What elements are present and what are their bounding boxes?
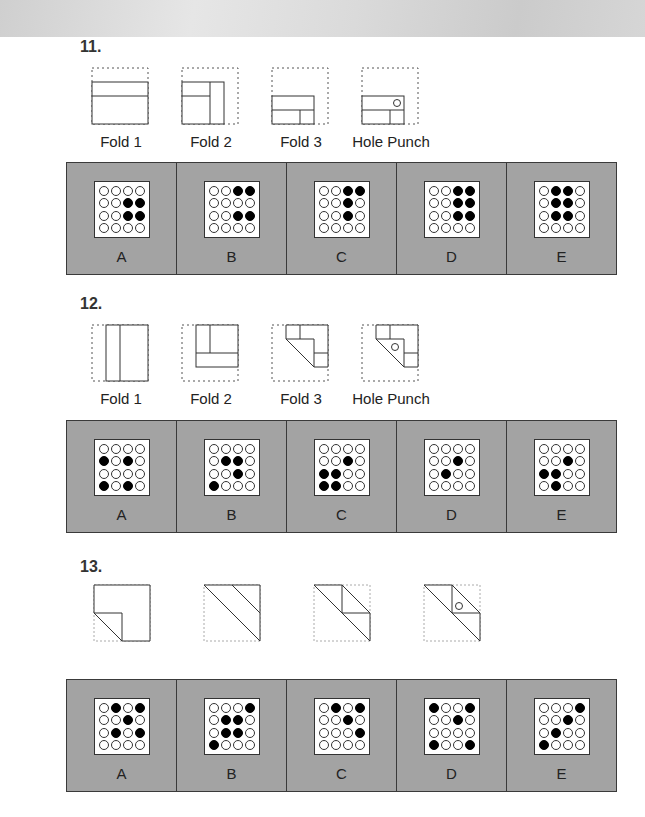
answer-option-d[interactable]: D xyxy=(397,680,507,791)
punched-hole-icon xyxy=(233,715,243,725)
empty-hole-icon xyxy=(233,740,243,750)
punched-hole-icon xyxy=(343,211,353,221)
answer-option-e[interactable]: E xyxy=(507,163,616,274)
answer-option-d[interactable]: D xyxy=(397,163,507,274)
empty-hole-icon xyxy=(563,703,573,713)
empty-hole-icon xyxy=(99,469,109,479)
answer-letter: A xyxy=(67,248,176,265)
answer-option-c[interactable]: C xyxy=(287,421,397,532)
empty-hole-icon xyxy=(563,469,573,479)
empty-hole-icon xyxy=(355,456,365,466)
empty-hole-icon xyxy=(551,456,561,466)
empty-hole-icon xyxy=(331,740,341,750)
punched-hole-icon xyxy=(551,211,561,221)
fold-1-figure xyxy=(93,584,153,644)
empty-hole-icon xyxy=(111,186,121,196)
punched-hole-icon xyxy=(221,456,231,466)
empty-hole-icon xyxy=(465,481,475,491)
empty-hole-icon xyxy=(441,211,451,221)
empty-hole-icon xyxy=(111,456,121,466)
empty-hole-icon xyxy=(453,703,463,713)
punched-hole-icon xyxy=(539,740,549,750)
hole-punch-figure xyxy=(361,324,421,384)
empty-hole-icon xyxy=(551,444,561,454)
answer-option-b[interactable]: B xyxy=(177,680,287,791)
empty-hole-icon xyxy=(441,456,451,466)
empty-hole-icon xyxy=(539,444,549,454)
punched-hole-icon xyxy=(245,703,255,713)
answer-option-c[interactable]: C xyxy=(287,680,397,791)
empty-hole-icon xyxy=(575,715,585,725)
empty-hole-icon xyxy=(233,703,243,713)
empty-hole-icon xyxy=(429,481,439,491)
hole-grid xyxy=(424,181,480,238)
fold-2-figure xyxy=(203,584,263,644)
empty-hole-icon xyxy=(209,715,219,725)
answer-option-a[interactable]: A xyxy=(67,421,177,532)
empty-hole-icon xyxy=(453,728,463,738)
answer-options-panel: ABCDE xyxy=(66,420,617,533)
punched-hole-icon xyxy=(111,703,121,713)
punched-hole-icon xyxy=(331,469,341,479)
empty-hole-icon xyxy=(221,198,231,208)
answer-letter: B xyxy=(177,506,286,523)
punched-hole-icon xyxy=(233,456,243,466)
answer-option-d[interactable]: D xyxy=(397,421,507,532)
empty-hole-icon xyxy=(209,186,219,196)
empty-hole-icon xyxy=(319,444,329,454)
empty-hole-icon xyxy=(99,186,109,196)
fold-3-figure xyxy=(271,67,331,127)
empty-hole-icon xyxy=(343,740,353,750)
answer-option-b[interactable]: B xyxy=(177,421,287,532)
answer-letter: E xyxy=(507,248,616,265)
hole-grid xyxy=(204,181,260,238)
answer-letter: C xyxy=(287,765,396,782)
punched-hole-icon xyxy=(551,198,561,208)
empty-hole-icon xyxy=(245,728,255,738)
empty-hole-icon xyxy=(575,444,585,454)
empty-hole-icon xyxy=(111,469,121,479)
empty-hole-icon xyxy=(429,223,439,233)
empty-hole-icon xyxy=(245,198,255,208)
empty-hole-icon xyxy=(343,444,353,454)
punched-hole-icon xyxy=(429,740,439,750)
empty-hole-icon xyxy=(209,703,219,713)
punched-hole-icon xyxy=(331,703,341,713)
hole-punch-label: Hole Punch xyxy=(336,390,446,407)
empty-hole-icon xyxy=(539,481,549,491)
empty-hole-icon xyxy=(429,469,439,479)
punched-hole-icon xyxy=(245,186,255,196)
empty-hole-icon xyxy=(343,223,353,233)
punched-hole-icon xyxy=(465,211,475,221)
empty-hole-icon xyxy=(245,715,255,725)
empty-hole-icon xyxy=(209,444,219,454)
empty-hole-icon xyxy=(575,469,585,479)
empty-hole-icon xyxy=(111,444,121,454)
empty-hole-icon xyxy=(441,740,451,750)
answer-option-a[interactable]: A xyxy=(67,163,177,274)
punched-hole-icon xyxy=(465,186,475,196)
empty-hole-icon xyxy=(209,728,219,738)
answer-letter: D xyxy=(397,248,506,265)
empty-hole-icon xyxy=(245,223,255,233)
punched-hole-icon xyxy=(355,728,365,738)
punched-hole-icon xyxy=(343,186,353,196)
empty-hole-icon xyxy=(331,186,341,196)
answer-option-e[interactable]: E xyxy=(507,421,616,532)
empty-hole-icon xyxy=(99,444,109,454)
hole-grid xyxy=(314,439,370,496)
punched-hole-icon xyxy=(135,211,145,221)
empty-hole-icon xyxy=(575,481,585,491)
empty-hole-icon xyxy=(551,703,561,713)
answer-option-e[interactable]: E xyxy=(507,680,616,791)
answer-options-panel: ABCDE xyxy=(66,162,617,275)
empty-hole-icon xyxy=(123,223,133,233)
answer-letter: B xyxy=(177,248,286,265)
punched-hole-icon xyxy=(209,740,219,750)
answer-option-b[interactable]: B xyxy=(177,163,287,274)
answer-option-a[interactable]: A xyxy=(67,680,177,791)
empty-hole-icon xyxy=(111,223,121,233)
answer-option-c[interactable]: C xyxy=(287,163,397,274)
hole-grid xyxy=(424,439,480,496)
empty-hole-icon xyxy=(465,456,475,466)
